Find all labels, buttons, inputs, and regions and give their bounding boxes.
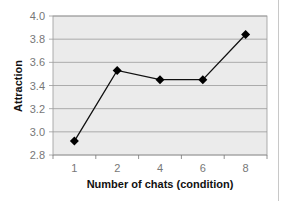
x-axis-label: Number of chats (condition) — [87, 178, 234, 190]
page-divider — [278, 0, 279, 201]
y-axis-label: Attraction — [12, 60, 24, 112]
x-tick-label: 6 — [200, 162, 206, 174]
y-tick-label: 3.0 — [30, 126, 45, 138]
y-tick-label: 3.6 — [30, 56, 45, 68]
y-tick-label: 3.2 — [30, 103, 45, 115]
x-tick-label: 4 — [157, 162, 163, 174]
x-tick-label: 1 — [71, 162, 77, 174]
x-axis-ticks: 12468 — [53, 155, 267, 174]
line-chart: 2.83.03.23.43.63.84.0 12468 Attraction N… — [0, 0, 283, 201]
y-tick-label: 2.8 — [30, 149, 45, 161]
y-tick-label: 3.4 — [30, 80, 45, 92]
y-tick-label: 3.8 — [30, 33, 45, 45]
y-tick-label: 4.0 — [30, 10, 45, 22]
x-tick-label: 2 — [114, 162, 120, 174]
x-tick-label: 8 — [243, 162, 249, 174]
y-axis-ticks: 2.83.03.23.43.63.84.0 — [30, 10, 45, 161]
